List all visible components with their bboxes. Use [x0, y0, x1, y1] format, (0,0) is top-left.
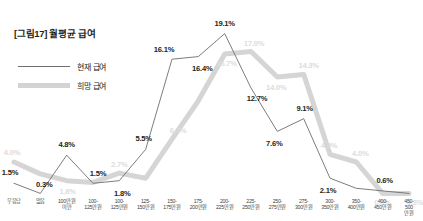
data-label: 4.0% [4, 148, 21, 157]
x-axis-tick-label: 무응답 [7, 198, 21, 204]
legend-item-current: 현재 급여 [18, 57, 133, 76]
x-axis-tick-label: 100- 125만원 [111, 198, 128, 210]
x-axis-tick-label: 275- 300만원 [295, 198, 312, 210]
legend-swatch-desired-line-icon [18, 83, 70, 88]
data-label: 16.4% [192, 63, 213, 72]
data-label: 1.8% [59, 186, 76, 195]
data-label: 4.9% [321, 141, 338, 150]
data-label: 19.1% [214, 18, 235, 27]
legend-label-current: 현재 급여 [77, 61, 106, 72]
x-axis-tick-label: 100만원 미만 [58, 198, 75, 210]
x-axis-tick-label: 350- 400만원 [348, 198, 365, 210]
data-label: 12.7% [247, 94, 268, 103]
data-label: 14.3% [298, 61, 319, 70]
data-label: 4.8% [58, 140, 75, 149]
chart-legend: 현재 급여 희망 급여 [18, 57, 133, 95]
x-axis-tick-label: 175- 200만원 [190, 198, 207, 210]
data-label: 1.8% [114, 188, 131, 197]
data-label: 2.1% [320, 186, 337, 195]
x-axis-tick-label: 400- 450만원 [374, 198, 391, 210]
x-axis-tick-label: 250- 275만원 [269, 198, 286, 210]
data-label: 5.5% [135, 134, 152, 143]
x-axis-tick-label: 225- 250만원 [242, 198, 259, 210]
figure-title: [그림17] 월평균 급여 [14, 26, 95, 40]
data-label: 1.5% [90, 169, 107, 178]
data-label: 16.1% [154, 45, 175, 54]
data-label: 2.7% [111, 160, 128, 169]
x-axis-tick-labels: 무응답없음100만원 미만100- 125만원100- 125만원125- 15… [0, 198, 421, 221]
data-label: 9.1% [296, 103, 313, 112]
data-label: 7.6% [266, 139, 283, 148]
page-top-margin [0, 0, 421, 12]
data-label: 6.7% [170, 126, 187, 135]
legend-swatch-current-line-icon [18, 66, 70, 67]
x-axis-tick-label: 125- 150만원 [137, 198, 154, 210]
data-label: 4.0% [352, 149, 369, 158]
x-axis-tick-label: 300- 350만원 [321, 198, 338, 210]
x-axis-tick-label: 100- 125만원 [84, 198, 101, 210]
data-label: 14.0% [266, 83, 287, 92]
data-label: 1.5% [2, 168, 19, 177]
legend-item-desired: 희망 급여 [18, 76, 133, 95]
x-axis-tick-label: 450- 500만원 [403, 198, 415, 217]
x-axis-tick-label: 없음 [36, 198, 46, 204]
x-axis-tick-label: 150- 175만원 [163, 198, 180, 210]
data-label: 0.3% [36, 180, 53, 189]
data-label: 16.7% [216, 59, 237, 68]
data-label: 0.6% [376, 175, 393, 184]
legend-label-desired: 희망 급여 [77, 80, 106, 91]
x-axis-tick-label: 200- 225만원 [216, 198, 233, 210]
data-label: 17.0% [244, 38, 265, 47]
